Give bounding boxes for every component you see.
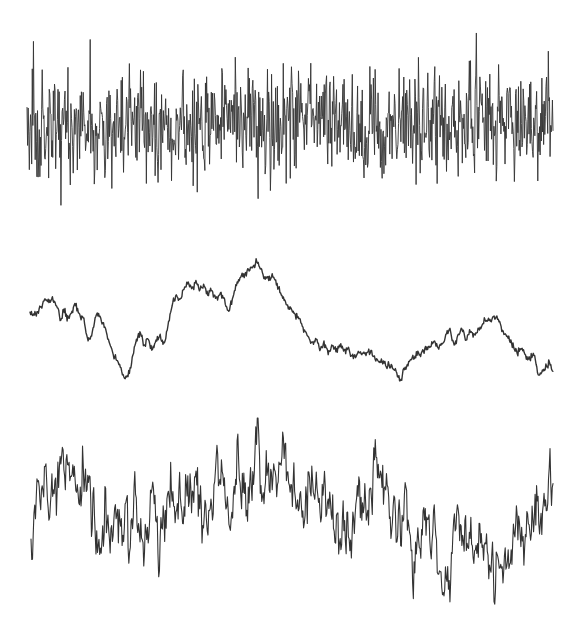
- pink-noise-series: [31, 418, 553, 604]
- white-noise-series: [27, 33, 553, 205]
- random-walk-line: [30, 259, 553, 381]
- white-noise-line: [27, 33, 553, 205]
- random-walk-series: [30, 259, 553, 381]
- pink-noise-line: [31, 418, 553, 604]
- signal-plot: [0, 0, 579, 626]
- figure: white-noise trace random-walk trace pink…: [0, 0, 579, 626]
